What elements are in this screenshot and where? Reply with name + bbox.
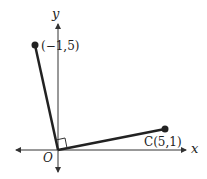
segment-oa xyxy=(35,45,58,150)
x-axis-label: x xyxy=(191,141,199,156)
origin-label: O xyxy=(43,151,53,165)
point-c-label: C(5,1) xyxy=(144,135,182,149)
point-c xyxy=(162,126,169,133)
point-a xyxy=(32,42,39,49)
y-axis-label: y xyxy=(51,6,60,21)
point-a-label: (−1,5) xyxy=(41,39,80,53)
coordinate-diagram: y x O (−1,5) C(5,1) xyxy=(0,0,207,179)
